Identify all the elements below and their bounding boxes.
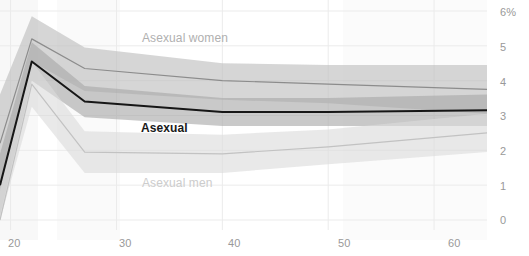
x-tick-30: 30 [119,237,132,249]
asexuality-by-age-chart: 6% 5 4 3 2 1 0 20 30 40 50 60 Asexual wo… [0,0,529,256]
y-tick-3: 3 [500,110,506,122]
y-tick-2: 2 [500,145,506,157]
chart-plot-area [0,0,529,256]
y-tick-4: 4 [500,76,506,88]
x-tick-60: 60 [448,237,461,249]
y-tick-1: 1 [500,180,506,192]
x-tick-40: 40 [228,237,241,249]
x-tick-20: 20 [8,237,21,249]
y-tick-6: 6% [500,6,516,18]
y-tick-0: 0 [500,214,506,226]
series-label-asexual-men: Asexual men [142,176,212,190]
x-tick-50: 50 [338,237,351,249]
y-tick-5: 5 [500,41,506,53]
series-label-asexual: Asexual [141,121,188,135]
series-label-asexual-women: Asexual women [142,31,228,45]
